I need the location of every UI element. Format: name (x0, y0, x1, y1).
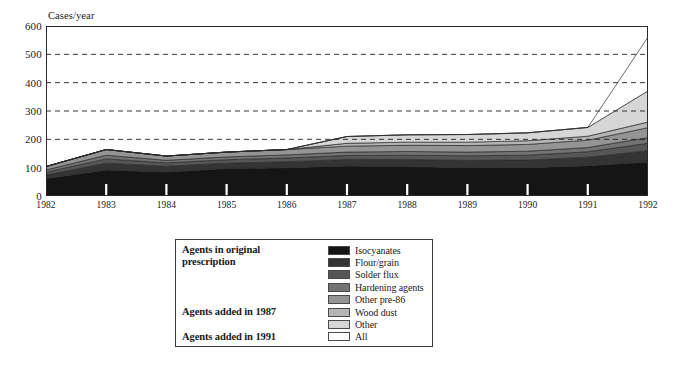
x-axis-ticks: 1982198319841985198619871988198919901991… (0, 200, 676, 216)
legend-item-label: Isocyanates (355, 245, 401, 256)
legend-swatch (328, 258, 350, 267)
legend-swatch (328, 246, 350, 255)
legend-swatch (328, 283, 350, 292)
legend-swatch (328, 308, 350, 317)
x-tick-label: 1984 (157, 200, 176, 210)
legend-group-label: prescription (182, 256, 235, 268)
legend-item-label: Solder flux (355, 269, 399, 280)
x-tick-label: 1982 (36, 200, 55, 210)
y-tick-label: 400 (8, 77, 42, 89)
plot-area (46, 26, 648, 196)
x-tick-label: 1985 (217, 200, 236, 210)
y-tick-label: 500 (8, 48, 42, 60)
legend-item-label: Other pre-86 (355, 294, 405, 305)
x-tick-label: 1990 (518, 200, 537, 210)
plot-frame (46, 26, 648, 196)
legend-item: Flour/grain (328, 256, 432, 268)
x-tick-label: 1991 (578, 200, 597, 210)
legend-swatch (328, 295, 350, 304)
y-tick-label: 200 (8, 133, 42, 145)
x-tick-label: 1992 (638, 200, 657, 210)
legend-item: Hardening agents (328, 281, 432, 293)
legend-swatch (328, 320, 350, 329)
legend-entries: IsocyanatesFlour/grainSolder fluxHardeni… (328, 244, 432, 343)
legend-group-label: Agents in original (182, 244, 260, 256)
x-tick-label: 1986 (277, 200, 296, 210)
legend-group-label: Agents added in 1991 (182, 331, 276, 343)
legend-item: Isocyanates (328, 244, 432, 256)
legend-item: Other (328, 318, 432, 330)
legend-group-labels: Agents in originalprescriptionAgents add… (182, 243, 332, 349)
legend-item: Wood dust (328, 306, 432, 318)
legend-item: Other pre-86 (328, 294, 432, 306)
legend-item-label: All (355, 331, 367, 342)
legend-item-label: Other (355, 319, 377, 330)
chart-legend: Agents in originalprescriptionAgents add… (175, 239, 433, 347)
y-axis-title: Cases/year (48, 10, 94, 21)
legend-group-label: Agents added in 1987 (182, 306, 276, 318)
y-tick-label: 600 (8, 20, 42, 32)
legend-item-label: Wood dust (355, 307, 397, 318)
legend-swatch (328, 332, 350, 341)
y-tick-label: 100 (8, 162, 42, 174)
x-tick-label: 1988 (397, 200, 416, 210)
legend-item-label: Flour/grain (355, 257, 399, 268)
x-tick-label: 1989 (458, 200, 477, 210)
x-tick-label: 1987 (337, 200, 356, 210)
legend-swatch (328, 270, 350, 279)
stacked-area-chart: Cases/year 0100200300400500600 198219831… (0, 0, 676, 366)
x-tick-label: 1983 (96, 200, 115, 210)
legend-item: Solder flux (328, 269, 432, 281)
y-axis-ticks: 0100200300400500600 (0, 0, 42, 196)
legend-item: All (328, 331, 432, 343)
y-tick-label: 300 (8, 105, 42, 117)
legend-item-label: Hardening agents (355, 282, 424, 293)
